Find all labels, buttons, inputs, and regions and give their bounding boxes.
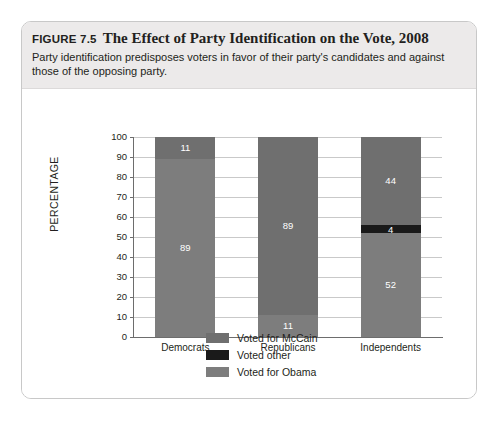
legend-swatch <box>206 367 229 377</box>
y-tick-mark <box>130 257 134 258</box>
legend-label: Voted for McCain <box>237 332 318 344</box>
bar-republicans[interactable]: 8911 <box>258 137 318 337</box>
y-tick-label: 40 <box>87 251 132 262</box>
chart-legend: Voted for McCainVoted otherVoted for Oba… <box>22 330 477 381</box>
bar-segment[interactable]: 4 <box>361 225 421 233</box>
figure-title-line: FIGURE 7.5The Effect of Party Identifica… <box>32 29 466 48</box>
y-tick-mark <box>130 217 134 218</box>
bar-independents[interactable]: 44452 <box>361 137 421 337</box>
y-tick-label: 30 <box>87 271 132 282</box>
legend-swatch <box>206 333 229 343</box>
figure-header: FIGURE 7.5The Effect of Party Identifica… <box>22 22 476 89</box>
y-tick-mark <box>130 197 134 198</box>
figure-card: FIGURE 7.5The Effect of Party Identifica… <box>21 21 477 399</box>
y-tick-mark <box>130 157 134 158</box>
y-tick-mark <box>130 137 134 138</box>
figure-title: The Effect of Party Identification on th… <box>103 30 429 46</box>
y-tick-label: 80 <box>87 171 132 182</box>
bar-segment-value: 89 <box>155 243 215 253</box>
bar-segment-value: 89 <box>258 221 318 231</box>
y-tick-label: 70 <box>87 191 132 202</box>
bar-segment[interactable]: 11 <box>155 137 215 159</box>
y-tick-label: 50 <box>87 231 132 242</box>
legend-item[interactable]: Voted other <box>22 347 477 362</box>
legend-item[interactable]: Voted for Obama <box>22 364 477 379</box>
bar-segment-value: 44 <box>361 176 421 186</box>
y-tick-label: 10 <box>87 311 132 322</box>
legend-label: Voted other <box>237 349 291 361</box>
legend-label: Voted for Obama <box>237 366 316 378</box>
y-tick-mark <box>130 237 134 238</box>
y-tick-label: 90 <box>87 151 132 162</box>
bar-segment[interactable]: 44 <box>361 137 421 225</box>
y-tick-label: 20 <box>87 291 132 302</box>
chart-body: PERCENTAGE 0102030405060708090100 118989… <box>22 90 476 399</box>
plot-wrapper: PERCENTAGE 0102030405060708090100 118989… <box>22 90 477 325</box>
bar-segment[interactable]: 89 <box>155 159 215 337</box>
legend-item[interactable]: Voted for McCain <box>22 330 477 345</box>
bar-segment-value: 11 <box>155 143 215 153</box>
figure-number: FIGURE 7.5 <box>32 33 97 45</box>
y-tick-label: 60 <box>87 211 132 222</box>
y-tick-label: 100 <box>87 131 132 142</box>
y-tick-mark <box>130 297 134 298</box>
y-tick-mark <box>130 177 134 178</box>
bar-segment[interactable]: 89 <box>258 137 318 315</box>
y-axis-title: PERCENTAGE <box>48 134 60 254</box>
legend-swatch <box>206 350 229 360</box>
y-tick-mark <box>130 317 134 318</box>
figure-subtitle: Party identification predisposes voters … <box>32 50 462 78</box>
y-tick-mark <box>130 277 134 278</box>
bar-democrats[interactable]: 1189 <box>155 137 215 337</box>
plot-area: 0102030405060708090100 1189891144452 Dem… <box>134 137 442 337</box>
bar-segment-value: 52 <box>361 280 421 290</box>
bar-segment[interactable]: 52 <box>361 233 421 337</box>
